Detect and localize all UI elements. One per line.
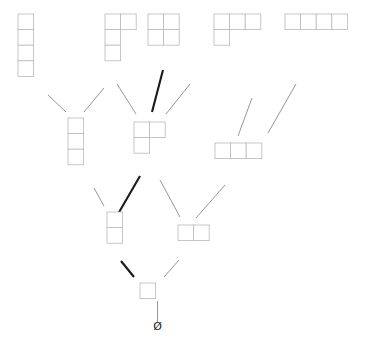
lattice-edge-p111-p211 [84,88,104,112]
lattice-svg: Ø [0,0,370,360]
label-layer: Ø [153,320,162,333]
lattice-edge-p11-p21 [118,176,140,214]
edge-layer [48,70,296,322]
young-cell [215,143,231,159]
young-cell [107,212,123,228]
young-cell [301,14,317,30]
young-cell [230,14,246,30]
young-cell [214,30,230,46]
young-cell [68,134,84,150]
young-diagram-211[interactable] [105,14,136,61]
lattice-edge-p21-p22 [152,70,163,112]
young-cell [148,14,164,30]
young-cell [214,14,230,30]
young-cell [107,228,123,244]
young-diagram-1[interactable] [140,283,156,299]
young-diagram-2[interactable] [178,225,209,241]
lattice-edge-p1-p11 [121,261,134,277]
young-cell [246,143,262,159]
young-cell [245,14,261,30]
young-diagram-3[interactable] [215,143,262,159]
young-diagram-22[interactable] [148,14,179,45]
young-cell [105,30,121,46]
lattice-edge-p11-p111 [94,188,104,206]
young-diagram-11[interactable] [107,212,123,243]
young-cell [148,30,164,46]
young-lattice-canvas: Ø [0,0,370,360]
lattice-edge-p3-p31 [238,98,252,136]
young-cell [105,45,121,61]
young-cell [316,14,332,30]
young-cell [68,149,84,165]
young-diagram-4[interactable] [285,14,347,30]
young-cell [134,122,150,138]
lattice-edge-p111-p1111 [48,95,66,112]
node-empty-partition-label: Ø [153,320,162,333]
young-cell [134,138,150,154]
young-diagram-31[interactable] [214,14,261,45]
young-diagram-21[interactable] [134,122,165,153]
young-cell [121,14,137,30]
lattice-edge-p21-p211 [117,84,136,114]
young-cell [194,225,210,241]
young-cell [18,61,34,77]
young-cell [18,14,34,30]
young-cell [231,143,247,159]
node-layer [18,14,347,299]
young-diagram-1111[interactable] [18,14,34,76]
young-cell [164,14,180,30]
young-cell [105,14,121,30]
young-cell [68,118,84,134]
young-cell [178,225,194,241]
young-diagram-111[interactable] [68,118,84,165]
young-cell [285,14,301,30]
young-cell [18,30,34,46]
young-cell [140,283,156,299]
young-cell [332,14,348,30]
lattice-edge-p2-p3 [196,185,225,218]
lattice-edge-p3-p4 [268,84,296,133]
lattice-edge-p2-p21 [160,180,180,217]
young-cell [150,122,166,138]
lattice-edge-p1-p2 [164,260,179,277]
young-cell [164,30,180,46]
young-cell [18,45,34,61]
lattice-edge-p21-p31 [166,84,190,114]
